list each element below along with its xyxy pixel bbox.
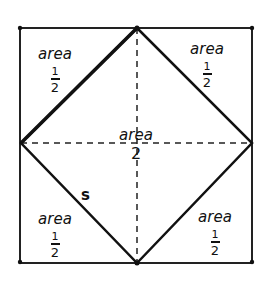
denominator: 2	[51, 81, 59, 94]
denominator: 2	[51, 246, 59, 259]
label-top-left: area 1 2	[33, 47, 77, 94]
area-value: 2	[110, 146, 162, 162]
numerator: 1	[52, 66, 59, 77]
side-label-s: s	[81, 188, 90, 203]
corner-dot	[18, 260, 22, 264]
numerator: 1	[52, 231, 59, 242]
fraction: 1 2	[51, 231, 60, 259]
label-center: area 2	[110, 128, 162, 162]
numerator: 1	[204, 61, 211, 72]
fraction: 1 2	[211, 229, 220, 257]
area-word: area	[185, 42, 229, 57]
fraction: 1 2	[203, 61, 212, 89]
fraction: 1 2	[51, 66, 60, 94]
area-word: area	[193, 210, 237, 225]
vertex-dot	[135, 26, 140, 31]
vertex-dot	[135, 261, 140, 266]
denominator: 2	[211, 244, 219, 257]
label-bottom-left: area 1 2	[32, 212, 78, 259]
area-word: area	[32, 212, 78, 227]
corner-dot	[18, 26, 22, 30]
area-word: area	[33, 47, 77, 62]
corner-dot	[250, 260, 254, 264]
corner-dot	[250, 26, 254, 30]
numerator: 1	[212, 229, 219, 240]
label-top-right: area 1 2	[185, 42, 229, 89]
label-bottom-right: area 1 2	[193, 210, 237, 257]
area-word: area	[110, 128, 162, 143]
denominator: 2	[203, 76, 211, 89]
